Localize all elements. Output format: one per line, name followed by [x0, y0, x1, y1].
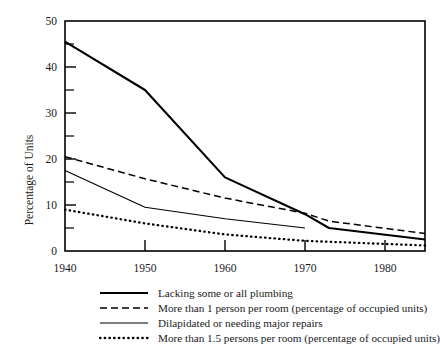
- legend-item-more-than-1-person: More than 1 person per room (percentage …: [100, 302, 428, 315]
- legend-item-lacking-plumbing: Lacking some or all plumbing: [100, 287, 293, 299]
- y-axis-tick-labels: 50 40 30 20 10 0: [46, 15, 58, 257]
- x-tick-label-1970: 1970: [294, 262, 317, 274]
- x-axis-tick-labels: 1940 1950 1960 1970 1980: [54, 262, 397, 274]
- legend: Lacking some or all plumbing More than 1…: [100, 287, 440, 345]
- legend-label-more-than-1-person: More than 1 person per room (percentage …: [158, 302, 428, 315]
- figure-container: Percentage of Units 50 40 30 20 10 0: [0, 0, 440, 362]
- legend-item-dilapidated: Dilapidated or needing major repairs: [100, 317, 323, 329]
- y-axis-minor-ticks: [65, 44, 74, 228]
- series-line-dilapidated: [65, 171, 305, 229]
- line-chart: Percentage of Units 50 40 30 20 10 0: [0, 0, 440, 362]
- y-tick-label-50: 50: [46, 15, 58, 27]
- x-tick-label-1980: 1980: [374, 262, 397, 274]
- x-tick-label-1960: 1960: [214, 262, 237, 274]
- y-tick-label-20: 20: [46, 153, 58, 165]
- x-tick-label-1950: 1950: [134, 262, 157, 274]
- series-group: [65, 42, 425, 246]
- y-axis-title-text: Percentage of Units: [23, 134, 36, 225]
- series-line-more-than-1p5-person: [65, 210, 425, 246]
- y-tick-label-40: 40: [46, 61, 58, 73]
- y-tick-label-10: 10: [46, 199, 58, 211]
- series-line-lacking-plumbing: [65, 42, 425, 240]
- x-tick-label-1940: 1940: [54, 262, 77, 274]
- y-tick-label-0: 0: [51, 245, 57, 257]
- plot-frame: [65, 21, 425, 251]
- legend-label-lacking-plumbing: Lacking some or all plumbing: [158, 287, 293, 299]
- y-axis-title: Percentage of Units: [23, 134, 36, 225]
- legend-label-dilapidated: Dilapidated or needing major repairs: [158, 317, 323, 329]
- y-tick-label-30: 30: [46, 107, 58, 119]
- legend-label-more-than-1p5-person: More than 1.5 persons per room (percenta…: [158, 332, 440, 345]
- legend-item-more-than-1p5-person: More than 1.5 persons per room (percenta…: [100, 332, 440, 345]
